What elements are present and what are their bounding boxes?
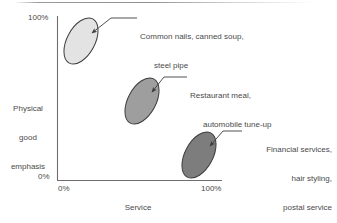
y-axis-title-line2: good — [2, 133, 54, 143]
annotation-services-line3: postal service — [182, 203, 332, 213]
marker-goods-cluster — [57, 12, 105, 69]
annotation-services-line1: Financial services, — [182, 145, 332, 155]
y-axis-title-line1: Physical — [2, 104, 54, 114]
annotation-services: Financial services, hair styling, postal… — [182, 126, 332, 223]
annotation-goods-line1: Common nails, canned soup, — [140, 32, 268, 42]
annotation-hybrid-line1: Restaurant meal, — [190, 91, 300, 101]
x-axis-title-line1: Service — [108, 203, 168, 213]
figure-canvas: 100% 0% 0% 100% Physical good emphasis S… — [0, 0, 337, 223]
annotation-services-line2: hair styling, — [182, 174, 332, 184]
x-tick-0: 0% — [58, 184, 70, 193]
leader-line-goods — [92, 18, 137, 33]
y-axis-title-line3: emphasis — [2, 162, 54, 172]
annotation-goods-line2: steel pipe — [140, 61, 268, 71]
y-axis-title: Physical good emphasis — [2, 85, 54, 191]
x-axis-title: Service emphasis — [108, 184, 168, 223]
y-tick-100: 100% — [28, 13, 48, 22]
